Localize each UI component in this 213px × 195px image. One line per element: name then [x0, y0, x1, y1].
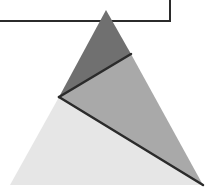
top-rectangle [0, 0, 170, 21]
diagram-canvas [0, 0, 213, 195]
triangle-regions [10, 10, 203, 185]
